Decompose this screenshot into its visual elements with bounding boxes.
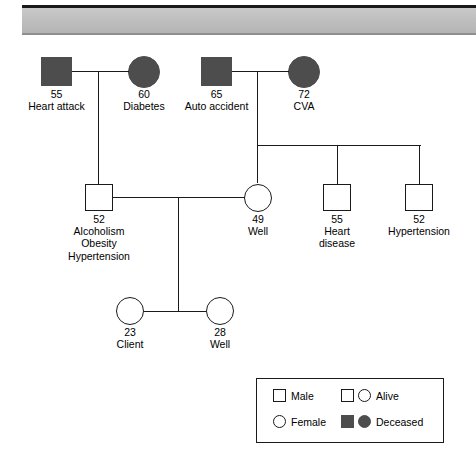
age-value: 23 xyxy=(103,326,157,338)
genogram-diagram: 55 Heart attack 60 Diabetes 65 Auto acci… xyxy=(0,0,476,475)
note-line: Heart attack xyxy=(3,100,110,112)
age-value: 52 xyxy=(381,213,457,225)
union-line-g1-couple-1 xyxy=(72,71,129,72)
note-line: Obesity xyxy=(31,237,167,249)
sibling-bar-generation2 xyxy=(257,145,421,146)
banner-shadow-rule xyxy=(22,33,476,35)
note-line: Well xyxy=(228,225,288,237)
descent-line-g1-couple-2 xyxy=(257,71,258,146)
label-g3-sister: 28 Well xyxy=(193,326,247,350)
legend-glyphs-deceased xyxy=(341,415,371,428)
age-value: 49 xyxy=(228,213,288,225)
circle-outline-icon xyxy=(273,415,286,428)
node-g1-paternal-grandmother[interactable] xyxy=(128,56,160,88)
square-outline-icon xyxy=(341,389,354,402)
note-line: Hypertension xyxy=(381,225,457,237)
legend-item-male: Male xyxy=(273,389,314,402)
legend-glyphs-alive xyxy=(341,389,371,402)
union-line-g1-couple-2 xyxy=(232,71,289,72)
square-filled-icon xyxy=(341,415,354,428)
sibling-drop-g2-mother xyxy=(257,145,258,183)
age-value: 52 xyxy=(31,213,167,225)
circle-filled-icon xyxy=(358,415,371,428)
banner-gray-bar xyxy=(22,8,476,33)
note-line: Alcoholism xyxy=(31,225,167,237)
sibling-drop-g2-uncle-1 xyxy=(337,145,338,184)
node-g3-client[interactable] xyxy=(116,297,144,325)
sibling-bar-generation3-right xyxy=(178,311,206,312)
age-value: 55 xyxy=(3,88,110,100)
legend-label-deceased: Deceased xyxy=(376,416,423,428)
node-g1-paternal-grandfather[interactable] xyxy=(41,57,72,86)
node-g1-maternal-grandmother[interactable] xyxy=(288,56,320,88)
legend-label-male: Male xyxy=(291,390,314,402)
legend-item-deceased: Deceased xyxy=(341,415,423,428)
descent-line-g1-couple-1 xyxy=(98,71,99,185)
legend-item-alive: Alive xyxy=(341,389,399,402)
square-outline-icon xyxy=(273,389,286,402)
sibling-drop-g2-uncle-2 xyxy=(419,145,420,184)
label-g2-father: 52 Alcoholism Obesity Hypertension xyxy=(31,213,167,262)
note-line: Heart xyxy=(307,225,367,237)
node-g2-father[interactable] xyxy=(85,184,113,211)
node-g1-maternal-grandfather[interactable] xyxy=(201,57,232,86)
sibling-bar-generation3-left xyxy=(144,311,179,312)
label-g1-paternal-grandfather: 55 Heart attack xyxy=(3,88,110,112)
descent-line-g2-couple xyxy=(178,197,179,312)
age-value: 72 xyxy=(266,88,342,100)
label-g2-uncle-1: 55 Heart disease xyxy=(307,213,367,250)
legend-glyphs-female xyxy=(273,415,286,428)
note-line: Auto accident xyxy=(166,100,267,112)
note-line: disease xyxy=(307,237,367,249)
note-line: Well xyxy=(193,338,247,350)
node-g2-uncle-1[interactable] xyxy=(323,184,351,211)
age-value: 65 xyxy=(166,88,267,100)
legend-item-female: Female xyxy=(273,415,326,428)
legend-box: Male Female Alive Deceased xyxy=(256,378,444,443)
age-value: 28 xyxy=(193,326,247,338)
node-g2-mother[interactable] xyxy=(244,184,272,212)
legend-glyphs-male xyxy=(273,389,286,402)
label-g1-maternal-grandfather: 65 Auto accident xyxy=(166,88,267,112)
label-g2-mother: 49 Well xyxy=(228,213,288,237)
age-value: 55 xyxy=(307,213,367,225)
note-line: CVA xyxy=(266,100,342,112)
note-line: Hypertension xyxy=(31,250,167,262)
note-line: Client xyxy=(103,338,157,350)
label-g2-uncle-2: 52 Hypertension xyxy=(381,213,457,237)
legend-label-female: Female xyxy=(291,416,326,428)
circle-outline-icon xyxy=(358,389,371,402)
node-g3-sister[interactable] xyxy=(206,297,234,325)
legend-label-alive: Alive xyxy=(376,390,399,402)
label-g3-client: 23 Client xyxy=(103,326,157,350)
node-g2-uncle-2[interactable] xyxy=(405,184,433,211)
label-g1-maternal-grandmother: 72 CVA xyxy=(266,88,342,112)
